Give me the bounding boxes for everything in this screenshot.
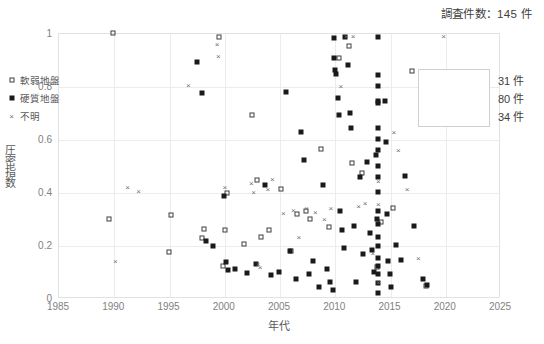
data-point-filled-square	[337, 208, 342, 213]
data-point-cross	[215, 53, 222, 60]
data-point-filled-square	[374, 152, 379, 157]
y-tick-label: 0.2	[18, 240, 52, 251]
data-point-filled-square	[332, 56, 337, 61]
data-point-open-square	[168, 212, 173, 217]
data-point-cross	[303, 204, 310, 211]
data-point-cross	[185, 81, 192, 88]
data-point-cross	[295, 233, 302, 240]
data-point-cross	[350, 32, 357, 39]
data-point-filled-square	[376, 290, 381, 295]
data-point-filled-square	[385, 211, 390, 216]
data-point-filled-square	[354, 280, 359, 285]
y-axis-title: 圧密指数	[2, 144, 18, 188]
data-point-open-square	[390, 206, 395, 211]
data-point-filled-square	[376, 235, 381, 240]
data-point-filled-square	[376, 73, 381, 78]
data-point-open-square	[106, 216, 111, 221]
data-point-filled-square	[334, 72, 339, 77]
data-point-cross	[404, 186, 411, 193]
data-point-open-square	[254, 177, 259, 182]
data-point-filled-square	[332, 35, 337, 40]
legend-label: 軟弱地盤	[20, 73, 60, 87]
data-point-filled-square	[302, 158, 307, 163]
data-point-cross	[327, 205, 334, 212]
data-point-filled-square	[221, 193, 226, 198]
data-point-filled-square	[383, 99, 388, 104]
data-point-open-square	[336, 56, 341, 61]
legend-count: 80 件	[498, 89, 524, 107]
legend-count: 31 件	[498, 71, 524, 89]
data-point-filled-square	[335, 95, 340, 100]
data-point-cross	[280, 209, 287, 216]
data-point-cross	[269, 176, 276, 183]
data-point-filled-square	[204, 239, 209, 244]
data-point-cross	[124, 184, 131, 191]
data-point-cross	[290, 206, 297, 213]
data-point-filled-square	[321, 183, 326, 188]
gridline-vertical	[225, 34, 226, 297]
data-point-filled-square	[226, 268, 231, 273]
data-point-filled-square	[376, 147, 381, 152]
data-point-cross	[257, 263, 264, 270]
data-point-cross	[369, 250, 376, 257]
data-point-cross	[214, 40, 221, 47]
data-point-cross	[337, 83, 344, 90]
data-point-filled-square	[386, 258, 391, 263]
gridline-vertical	[280, 34, 281, 297]
x-tick-label: 2015	[378, 301, 400, 312]
x-tick-label: 2000	[213, 301, 235, 312]
data-point-filled-square	[376, 264, 381, 269]
x-tick-label: 1990	[102, 301, 124, 312]
y-tick-label: 0.4	[18, 187, 52, 198]
data-point-open-square	[349, 161, 354, 166]
data-point-filled-square	[402, 173, 407, 178]
data-point-cross	[135, 187, 142, 194]
data-point-filled-square	[339, 228, 344, 233]
gridline-vertical	[170, 34, 171, 297]
data-point-cross	[415, 255, 422, 262]
data-point-filled-square	[376, 256, 381, 261]
data-point-filled-square	[375, 216, 380, 221]
data-point-filled-square	[195, 60, 200, 65]
gridline-horizontal	[59, 246, 499, 247]
marker-glyph	[9, 96, 14, 101]
data-point-filled-square	[387, 272, 392, 277]
x-tick-label: 2020	[434, 301, 456, 312]
data-point-cross	[248, 179, 255, 186]
data-point-filled-square	[420, 277, 425, 282]
data-point-filled-square	[348, 126, 353, 131]
data-point-filled-square	[210, 243, 215, 248]
survey-count-title: 調査件数：145 件	[441, 5, 532, 21]
data-point-filled-square	[331, 288, 336, 293]
data-point-open-square	[318, 147, 323, 152]
data-point-filled-square	[398, 257, 403, 262]
marker-glyph	[9, 78, 14, 83]
data-point-cross	[112, 257, 119, 264]
data-point-filled-square	[376, 272, 381, 277]
data-point-open-square	[259, 235, 264, 240]
data-point-cross	[440, 32, 447, 39]
data-point-filled-square	[327, 280, 332, 285]
data-point-cross	[395, 146, 402, 153]
data-point-filled-square	[376, 221, 381, 226]
x-tick-label: 2025	[489, 301, 511, 312]
data-point-filled-square	[376, 34, 381, 39]
data-point-filled-square	[316, 284, 321, 289]
data-point-open-square	[267, 228, 272, 233]
data-point-filled-square	[345, 62, 350, 67]
y-tick-label: 1	[18, 28, 52, 39]
gridline-horizontal	[59, 193, 499, 194]
chart-root: 調査件数：145 件 19851990199520002005201020152…	[0, 0, 544, 344]
x-axis-title: 年代	[268, 317, 290, 333]
y-tick-label: 0.6	[18, 134, 52, 145]
legend-marker-cross-icon	[6, 111, 17, 122]
data-point-filled-square	[311, 259, 316, 264]
data-point-filled-square	[299, 130, 304, 135]
data-point-filled-square	[277, 269, 282, 274]
data-point-open-square	[307, 216, 312, 221]
data-point-filled-square	[293, 277, 298, 282]
data-point-open-square	[250, 112, 255, 117]
legend-label: 硬質地盤	[20, 91, 60, 105]
data-point-open-square	[222, 227, 227, 232]
data-point-filled-square	[376, 163, 381, 168]
